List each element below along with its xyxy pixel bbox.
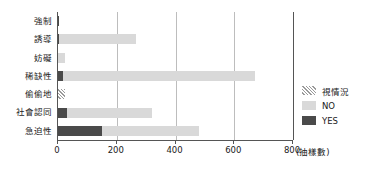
bar-row [58,85,293,103]
legend-label: 視情況 [322,85,349,97]
bar-row [58,103,293,121]
bar-segment-no [58,53,65,63]
bar-segment-yes [58,108,67,118]
legend-item: 視情況 [302,83,372,98]
bar-chart: 強制誘導妨礙稀缺性偷偷地社會認同急迫性 0200400600800 (抽樣數) … [0,0,375,176]
x-axis-unit-label: (抽樣數) [296,145,330,157]
bar-segment-no [102,126,199,136]
x-tick [116,141,117,144]
dark-gray-swatch [302,116,316,125]
x-tick [233,141,234,144]
bar-row [58,30,293,48]
light-gray-swatch [302,101,316,110]
y-axis-label: 社會認同 [0,103,56,121]
bar-segment-yes [58,16,59,26]
bar-segment-no [63,71,255,81]
x-axis: 0200400600800 [57,141,292,159]
legend-label: YES [322,116,338,126]
bar-row [58,67,293,85]
legend-label: NO [322,101,335,111]
y-axis-label: 妨礙 [0,49,56,67]
bar-row [58,49,293,67]
y-axis-label: 偷偷地 [0,85,56,103]
x-tick-label: 200 [108,145,124,155]
bar-segment-depends [58,89,65,99]
legend-item: YES [302,113,372,128]
x-tick-label: 600 [225,145,241,155]
bar-row [58,12,293,30]
x-tick [292,141,293,144]
y-axis-label: 強制 [0,12,56,30]
hatch-swatch [302,86,316,95]
y-axis-category-labels: 強制誘導妨礙稀缺性偷偷地社會認同急迫性 [0,12,56,140]
bar-segment-yes [58,126,102,136]
bar-segment-no [67,108,152,118]
legend-item: NO [302,98,372,113]
y-axis-label: 稀缺性 [0,67,56,85]
x-tick [175,141,176,144]
chart-legend: 視情況NOYES [302,83,372,128]
gridline-800 [293,12,294,140]
bar-row [58,122,293,140]
x-tick-label: 400 [166,145,182,155]
plot-area [57,12,293,141]
x-tick [57,141,58,144]
bar-segment-no [59,34,135,44]
x-tick-label: 0 [54,145,59,155]
y-axis-label: 急迫性 [0,122,56,140]
y-axis-label: 誘導 [0,30,56,48]
